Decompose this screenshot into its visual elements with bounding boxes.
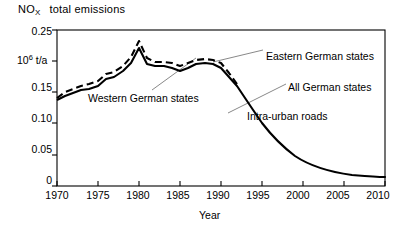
annotation-leader-lines	[152, 50, 286, 113]
leader-line-all-german	[228, 84, 286, 113]
plot-frame	[57, 30, 385, 186]
chart-figure: NOXtotal emissions 106 t/a 0.25 0.15 0.1…	[0, 0, 412, 230]
x-tick-marks	[57, 181, 385, 186]
plot-area	[0, 0, 412, 230]
y-tick-marks	[52, 30, 57, 186]
series-all-german-states	[237, 86, 385, 177]
leader-line-eastern	[213, 50, 263, 62]
